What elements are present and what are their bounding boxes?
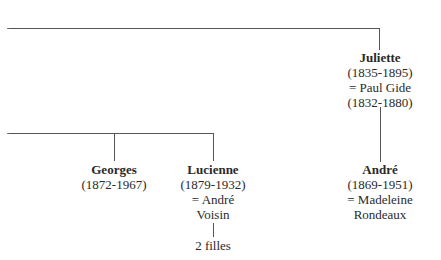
juliette-drop-connector [379, 28, 380, 50]
juliette-dates: (1835-1895) [330, 65, 430, 80]
node-georges: Georges (1872-1967) [64, 162, 164, 192]
andre-dates: (1869-1951) [330, 177, 430, 192]
node-juliette: Juliette (1835-1895) = Paul Gide (1832-1… [330, 50, 430, 110]
lucienne-children-connector [213, 223, 214, 237]
georges-dates: (1872-1967) [64, 177, 164, 192]
lucienne-children-label: 2 filles [163, 238, 263, 253]
top-branch-fade [0, 25, 10, 31]
juliette-spouse: = Paul Gide [330, 80, 430, 95]
node-lucienne-children: 2 filles [163, 238, 263, 253]
lucienne-dates: (1879-1932) [163, 177, 263, 192]
lucienne-name: Lucienne [163, 162, 263, 177]
andre-spouse-line2: Rondeaux [330, 207, 430, 222]
node-andre: André (1869-1951) = Madeleine Rondeaux [330, 162, 430, 222]
georges-name: Georges [64, 162, 164, 177]
andre-name: André [330, 162, 430, 177]
lucienne-spouse-line2: Voisin [163, 207, 263, 222]
juliette-name: Juliette [330, 50, 430, 65]
andre-spouse: = Madeleine [330, 192, 430, 207]
lower-branch-fade [0, 130, 10, 136]
lower-branch-connector [7, 133, 214, 134]
top-branch-connector [7, 28, 380, 29]
georges-drop-connector [114, 133, 115, 161]
lucienne-drop-connector [213, 133, 214, 161]
juliette-andre-connector [380, 107, 381, 162]
lucienne-spouse: = André [163, 192, 263, 207]
node-lucienne: Lucienne (1879-1932) = André Voisin [163, 162, 263, 222]
